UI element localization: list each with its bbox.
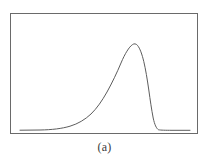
figure-container: (a) xyxy=(0,0,209,167)
plot-frame xyxy=(10,13,198,134)
figure-caption: (a) xyxy=(0,140,209,154)
